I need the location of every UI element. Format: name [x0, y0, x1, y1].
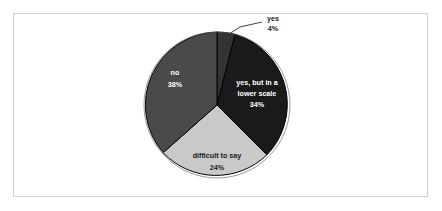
label-yes-value: 4% [268, 24, 279, 33]
label-yes-name: yes [267, 14, 279, 23]
label-difficult-to-say-name: difficult to say [193, 151, 242, 160]
label-no-name: no [171, 68, 180, 77]
pie-chart-svg: yes 4% yes, but in a lower scale 34% dif… [0, 0, 442, 211]
pie-chart-figure: yes 4% yes, but in a lower scale 34% dif… [0, 0, 442, 211]
label-no-value: 38% [168, 80, 183, 89]
label-difficult-to-say-value: 24% [210, 163, 225, 172]
chart-plot-area: yes 4% yes, but in a lower scale 34% dif… [0, 0, 442, 211]
label-yes-but-line-1: yes, but in a [236, 78, 279, 87]
label-yes-but-value: 34% [250, 100, 265, 109]
label-yes-but-line-2: lower scale [238, 89, 277, 98]
